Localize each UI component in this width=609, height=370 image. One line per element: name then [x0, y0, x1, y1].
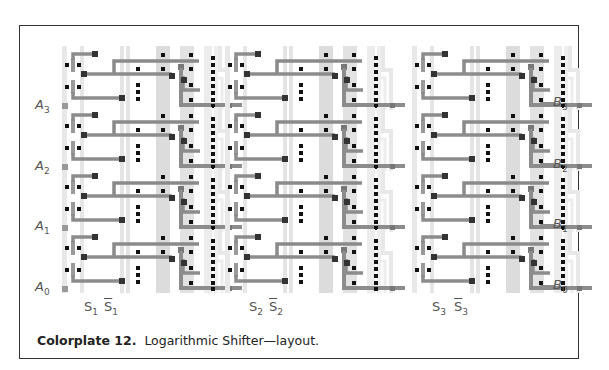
- output-label-b3: B3: [553, 94, 568, 112]
- input-label-a0: A0: [35, 279, 50, 297]
- select-label-s2-bar: S2: [269, 299, 283, 317]
- shifter-stage-2: [225, 46, 405, 293]
- figure-caption: Colorplate 12. Logarithmic Shifter—layou…: [37, 333, 319, 348]
- select-label-s3-bar: S3: [454, 299, 468, 317]
- caption-text: Logarithmic Shifter—layout.: [144, 333, 319, 348]
- input-label-a3: A3: [35, 97, 50, 115]
- caption-label: Colorplate 12.: [37, 333, 136, 348]
- output-label-b0: B0: [553, 277, 568, 295]
- shifter-stage-1: [62, 46, 242, 293]
- select-label-s1: S1: [84, 299, 98, 317]
- input-label-a2: A2: [35, 158, 50, 176]
- select-label-s2: S2: [249, 299, 263, 317]
- select-label-s1-bar: S1: [104, 299, 118, 317]
- select-label-s3: S3: [432, 299, 446, 317]
- output-label-b1: B1: [553, 216, 568, 234]
- input-label-a1: A1: [35, 218, 50, 236]
- output-label-b2: B2: [553, 156, 568, 174]
